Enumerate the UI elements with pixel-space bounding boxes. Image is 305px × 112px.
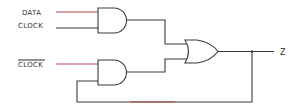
- and-gate-1: [98, 8, 126, 33]
- or-gate: [185, 40, 218, 63]
- logic-circuit-diagram: DATA CLOCK CLOCK Z: [0, 0, 305, 112]
- wire-and1-to-or: [127, 20, 190, 44]
- output-label-z: Z: [280, 48, 286, 57]
- and-gate-2: [98, 60, 127, 85]
- input-label-data: DATA: [22, 9, 41, 17]
- input-label-clock-bar: CLOCK: [18, 61, 43, 69]
- wire-and2-to-or: [127, 59, 190, 72]
- input-label-clock: CLOCK: [18, 22, 43, 30]
